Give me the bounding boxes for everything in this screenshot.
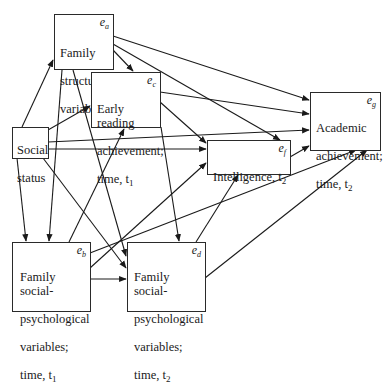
edge-intelligence-to-academic [290,146,309,157]
node-label: Family social- psychological variables; … [20,256,90,386]
node-family-structure: ea Family structure variables [54,14,114,70]
node-intelligence: ef Intelligence, t2 [207,140,291,175]
node-label: Early reading achievement; time, t1 [97,88,164,190]
node-family-sp-t1: eb Family social- psychological variable… [12,242,91,312]
node-academic-achievement: eg Academic achievement; time, t2 [310,92,381,151]
node-early-reading: ec Early reading achievement; time, t1 [91,72,161,128]
node-label: Family social- psychological variables; … [134,256,205,386]
node-label: Social status [17,129,48,185]
node-label: Academic achievement; time, t2 [316,107,383,195]
edge-social-to-family-structure [22,60,53,127]
edge-early-reading-to-academic [160,92,309,114]
node-social-status: Social status [12,127,49,159]
node-family-sp-t2: ed Family social- psychological variable… [127,242,206,312]
node-label: Intelligence, t2 [213,156,286,188]
